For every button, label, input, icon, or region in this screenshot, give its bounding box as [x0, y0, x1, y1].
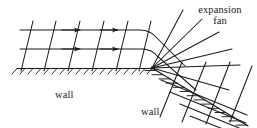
characteristic-line: [68, 21, 80, 71]
characteristic-line: [116, 21, 128, 71]
characteristic-line: [139, 21, 151, 71]
fan-ray: [152, 19, 202, 68]
downstream-streamline: [161, 80, 247, 115]
downstream-wall-group: [145, 68, 248, 126]
downstream-streamline: [190, 116, 228, 128]
characteristic-line: [21, 21, 33, 71]
downstream-wall-label: wall: [141, 106, 159, 117]
fan-ray: [152, 49, 232, 68]
upstream-wall-label: wall: [55, 89, 73, 100]
downstream-characteristic: [230, 66, 252, 122]
expansion-fan-label: expansion fan: [186, 4, 254, 26]
upstream-wall-hatching: [12, 69, 152, 75]
expansion-fan-label-line2: fan: [186, 15, 254, 26]
figure-canvas: expansion fan wall wall: [0, 0, 257, 128]
corner-vertex: [151, 67, 154, 70]
characteristic-line: [92, 21, 104, 71]
characteristic-line: [44, 21, 56, 71]
downstream-characteristic: [160, 62, 182, 117]
fan-ray: [152, 65, 240, 68]
upstream-characteristic-lines-group: [21, 21, 151, 71]
upstream-wall-group: [12, 69, 152, 75]
expansion-fan-label-line1: expansion: [186, 4, 254, 15]
